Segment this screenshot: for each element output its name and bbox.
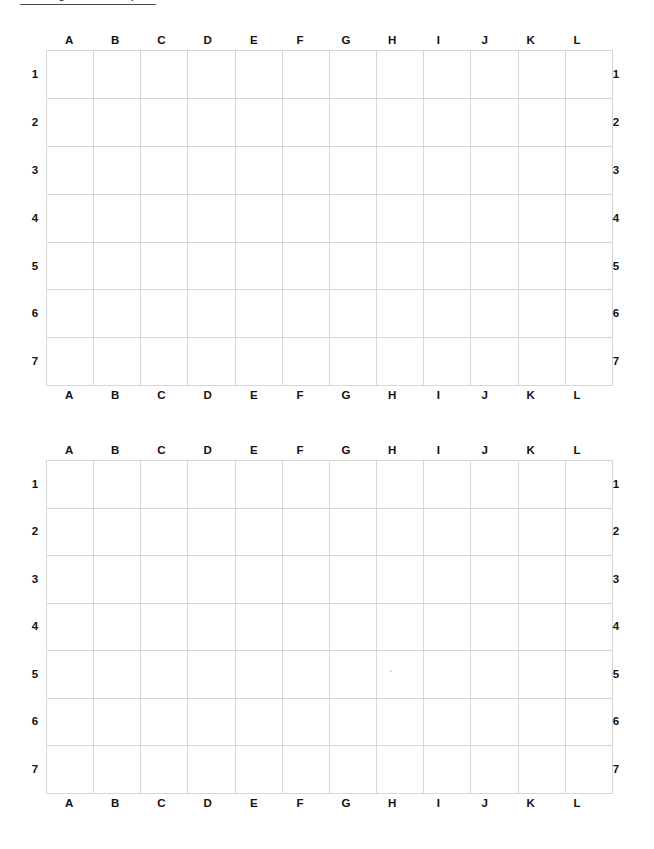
grid-cell-b5[interactable] xyxy=(94,242,141,290)
grid-cell-f6[interactable] xyxy=(282,290,329,338)
grid-cell-i6[interactable] xyxy=(424,698,471,746)
grid-cell-b2[interactable] xyxy=(94,508,141,556)
grid-cell-c7[interactable] xyxy=(141,338,188,386)
grid-cell-h4[interactable] xyxy=(377,194,424,242)
grid-cell-a7[interactable] xyxy=(47,746,94,794)
grid-cell-d5[interactable] xyxy=(188,242,235,290)
grid-cell-b5[interactable] xyxy=(94,651,141,699)
grid-cell-e6[interactable] xyxy=(235,290,282,338)
grid-cell-i4[interactable] xyxy=(424,194,471,242)
grid-cell-g3[interactable] xyxy=(329,556,376,604)
grid-cell-k7[interactable] xyxy=(518,746,565,794)
grid-cell-g4[interactable] xyxy=(329,194,376,242)
grid-cell-k3[interactable] xyxy=(518,146,565,194)
grid-cell-e7[interactable] xyxy=(235,746,282,794)
grid-cell-c1[interactable] xyxy=(141,51,188,99)
grid-cell-a6[interactable] xyxy=(47,290,94,338)
grid-cell-j5[interactable] xyxy=(471,242,518,290)
grid-cell-d7[interactable] xyxy=(188,746,235,794)
grid-cell-c2[interactable] xyxy=(141,98,188,146)
grid-cell-e2[interactable] xyxy=(235,98,282,146)
grid-cell-h2[interactable] xyxy=(377,508,424,556)
grid-cell-e1[interactable] xyxy=(235,461,282,509)
grid-cell-h4[interactable] xyxy=(377,603,424,651)
grid-cell-h3[interactable] xyxy=(377,556,424,604)
grid-cell-f5[interactable] xyxy=(282,242,329,290)
grid-cell-j1[interactable] xyxy=(471,461,518,509)
grid-cell-i7[interactable] xyxy=(424,746,471,794)
grid-cell-k4[interactable] xyxy=(518,194,565,242)
grid-cell-d6[interactable] xyxy=(188,290,235,338)
grid-cell-g2[interactable] xyxy=(329,98,376,146)
grid-cell-j4[interactable] xyxy=(471,603,518,651)
grid-cell-f3[interactable] xyxy=(282,146,329,194)
grid-cell-k1[interactable] xyxy=(518,51,565,99)
grid-cell-j7[interactable] xyxy=(471,338,518,386)
grid-cell-g5[interactable] xyxy=(329,242,376,290)
grid-cell-k6[interactable] xyxy=(518,698,565,746)
grid-cell-f7[interactable] xyxy=(282,338,329,386)
grid-cell-b3[interactable] xyxy=(94,146,141,194)
grid-cell-k2[interactable] xyxy=(518,508,565,556)
grid-cell-d1[interactable] xyxy=(188,461,235,509)
grid-cell-e3[interactable] xyxy=(235,146,282,194)
grid-cell-d2[interactable] xyxy=(188,98,235,146)
grid-cell-b7[interactable] xyxy=(94,746,141,794)
grid-cell-j6[interactable] xyxy=(471,290,518,338)
grid-cell-a3[interactable] xyxy=(47,146,94,194)
grid-cell-c5[interactable] xyxy=(141,242,188,290)
grid-cell-h1[interactable] xyxy=(377,51,424,99)
grid-cell-k7[interactable] xyxy=(518,338,565,386)
grid-cell-c6[interactable] xyxy=(141,290,188,338)
grid-cell-i3[interactable] xyxy=(424,146,471,194)
grid-cell-h7[interactable] xyxy=(377,338,424,386)
grid-cell-e2[interactable] xyxy=(235,508,282,556)
grid-cell-b3[interactable] xyxy=(94,556,141,604)
grid-cell-e7[interactable] xyxy=(235,338,282,386)
grid-cell-a2[interactable] xyxy=(47,508,94,556)
grid-cell-d2[interactable] xyxy=(188,508,235,556)
grid-cell-k1[interactable] xyxy=(518,461,565,509)
grid-cell-i2[interactable] xyxy=(424,98,471,146)
grid-top-table[interactable] xyxy=(46,50,613,386)
grid-cell-h6[interactable] xyxy=(377,698,424,746)
grid-cell-a4[interactable] xyxy=(47,194,94,242)
grid-cell-g6[interactable] xyxy=(329,290,376,338)
grid-cell-b7[interactable] xyxy=(94,338,141,386)
grid-cell-g6[interactable] xyxy=(329,698,376,746)
grid-cell-b1[interactable] xyxy=(94,461,141,509)
grid-cell-c6[interactable] xyxy=(141,698,188,746)
grid-cell-h7[interactable] xyxy=(377,746,424,794)
grid-cell-c7[interactable] xyxy=(141,746,188,794)
grid-cell-j6[interactable] xyxy=(471,698,518,746)
grid-cell-k5[interactable] xyxy=(518,651,565,699)
grid-cell-f1[interactable] xyxy=(282,461,329,509)
grid-cell-a7[interactable] xyxy=(47,338,94,386)
grid-cell-j4[interactable] xyxy=(471,194,518,242)
grid-cell-j5[interactable] xyxy=(471,651,518,699)
grid-cell-h1[interactable] xyxy=(377,461,424,509)
grid-cell-i6[interactable] xyxy=(424,290,471,338)
grid-cell-i4[interactable] xyxy=(424,603,471,651)
grid-cell-g3[interactable] xyxy=(329,146,376,194)
grid-cell-c5[interactable] xyxy=(141,651,188,699)
grid-cell-j3[interactable] xyxy=(471,556,518,604)
grid-cell-b2[interactable] xyxy=(94,98,141,146)
grid-cell-f6[interactable] xyxy=(282,698,329,746)
grid-cell-b6[interactable] xyxy=(94,698,141,746)
grid-cell-g7[interactable] xyxy=(329,338,376,386)
grid-cell-k3[interactable] xyxy=(518,556,565,604)
grid-cell-f3[interactable] xyxy=(282,556,329,604)
grid-cell-c1[interactable] xyxy=(141,461,188,509)
grid-cell-i7[interactable] xyxy=(424,338,471,386)
grid-cell-a6[interactable] xyxy=(47,698,94,746)
grid-cell-k4[interactable] xyxy=(518,603,565,651)
grid-cell-i3[interactable] xyxy=(424,556,471,604)
grid-cell-a2[interactable] xyxy=(47,98,94,146)
grid-cell-i1[interactable] xyxy=(424,51,471,99)
grid-cell-f7[interactable] xyxy=(282,746,329,794)
grid-cell-a3[interactable] xyxy=(47,556,94,604)
grid-cell-c4[interactable] xyxy=(141,603,188,651)
grid-cell-e3[interactable] xyxy=(235,556,282,604)
grid-cell-a1[interactable] xyxy=(47,461,94,509)
